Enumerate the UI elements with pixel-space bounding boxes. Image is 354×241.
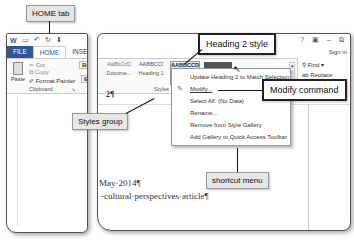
replace-icon: ab (302, 72, 309, 78)
menu-item-rename[interactable]: Rename... (172, 107, 290, 119)
callout-styles-group: Styles group (72, 113, 128, 130)
menu-item-remove[interactable]: Remove from Style Gallery (172, 119, 290, 131)
copy-label: Copy (35, 69, 49, 75)
find-label: Find (308, 62, 320, 68)
window-controls: ? ▣ – ⧉ (300, 36, 344, 44)
scissors-icon: ✂ (29, 62, 34, 68)
paste-label: Paste (10, 76, 26, 82)
style-name: Heading 1 (136, 70, 166, 76)
paste-button[interactable]: Paste (10, 62, 26, 82)
find-button[interactable]: ⚲ Find ▾ (302, 60, 332, 70)
quick-access-toolbar: W ▭ ↶ ↻ ⬇ (7, 34, 87, 46)
page-right-edge (308, 104, 309, 231)
callout-heading2-style: Heading 2 style (198, 33, 276, 55)
arrow-shortcut-menu (237, 148, 238, 172)
tab-file[interactable]: FILE (7, 46, 33, 58)
clipboard-group: Paste ✂ Cut ⧉ Copy ✐ Format Painter Berl… (7, 58, 87, 94)
style-tile-normal[interactable]: AaBbCcDDocume... (104, 61, 134, 85)
clipboard-group-label: Clipboard (29, 86, 53, 92)
left-ruler (17, 96, 18, 226)
document-mark: 2¶ (106, 90, 114, 99)
binoculars-icon: ⚲ (302, 62, 306, 68)
cut-label: Cut (36, 62, 45, 68)
undo-icon[interactable]: ↶ (34, 36, 40, 44)
style-preview: AABBCCI (139, 61, 163, 67)
style-tile-heading1[interactable]: AABBCCIHeading 1 (136, 61, 166, 85)
save-icon[interactable]: ▭ (22, 36, 29, 44)
mouse-pointer-icon: ↖ (233, 64, 241, 74)
document-line-2: -cultural·perspectives·article¶ (101, 191, 209, 201)
document-line-1: May·2014¶ (99, 178, 141, 188)
format-painter-button[interactable]: ✐ Format Painter (29, 77, 75, 84)
help-button[interactable]: ? (300, 36, 304, 44)
menu-label: Select All: (No Data) (190, 98, 244, 104)
clipboard-launcher-icon[interactable]: ↘ (71, 86, 75, 92)
copy-icon: ⧉ (29, 69, 33, 75)
menu-label: Rename... (190, 110, 218, 116)
copy-button[interactable]: ⧉ Copy (29, 69, 49, 76)
style-name: Docume... (104, 70, 134, 76)
arrow-modify (218, 90, 262, 91)
sign-in-link[interactable]: Sign in (329, 49, 347, 55)
word-window-left: W ▭ ↶ ↻ ⬇ FILE HOME INSERT Paste ✂ Cut ⧉… (6, 33, 88, 233)
redo-icon[interactable]: ↻ (45, 36, 51, 44)
menu-label: Add Gallery to Quick Access Toolbar (190, 134, 287, 140)
word-icon: W (10, 37, 17, 44)
callout-shortcut-menu: shortcut menu (206, 172, 269, 189)
tab-home[interactable]: HOME (33, 46, 67, 58)
minimize-button[interactable]: – (327, 36, 331, 44)
word-window-right: ? ▣ – ⧉ Sign in AaBbCcDDocume... AABBCCI… (97, 33, 351, 231)
bold-button[interactable]: B (81, 75, 88, 83)
menu-label: Modify... (190, 86, 212, 92)
tab-insert[interactable]: INSERT (66, 46, 88, 58)
format-painter-label: Format Painter (36, 78, 76, 84)
style-preview: AaBbCcD (107, 61, 131, 67)
customize-icon[interactable]: ⬇ (56, 36, 62, 44)
menu-item-add-gallery[interactable]: Add Gallery to Quick Access Toolbar (172, 131, 290, 143)
callout-home-tab: HOME tab (26, 5, 75, 22)
menu-label: Remove from Style Gallery (190, 122, 262, 128)
brush-icon: ✐ (29, 78, 34, 84)
clipboard-icon (13, 62, 23, 75)
font-name-box[interactable]: Berl (79, 61, 88, 69)
replace-label: Replace (310, 72, 332, 78)
modify-pencil-icon: ✎ (177, 85, 183, 93)
restore-button[interactable]: ⧉ (339, 36, 344, 44)
ribbon-display-button[interactable]: ▣ (312, 36, 319, 44)
ribbon-tabs: FILE HOME INSERT (7, 46, 87, 58)
styles-group-label: Styles (154, 86, 169, 92)
callout-modify-command: Modify command (262, 79, 347, 101)
cut-button[interactable]: ✂ Cut (29, 61, 45, 68)
